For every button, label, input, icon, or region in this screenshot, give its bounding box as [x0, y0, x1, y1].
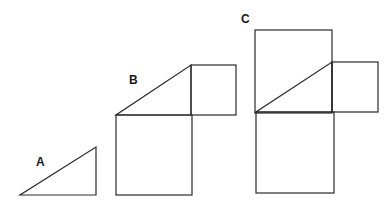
figure-c-small-square: [332, 62, 378, 112]
pythagorean-diagram: A B C: [0, 0, 392, 214]
figure-c-triangle: [256, 62, 332, 112]
figure-a-triangle: [20, 147, 96, 195]
figure-b-large-square: [116, 115, 192, 195]
figure-c-top-rect: [255, 30, 332, 113]
figure-c-label: C: [241, 12, 250, 26]
figure-a-label: A: [36, 155, 45, 169]
figure-a: A: [20, 147, 96, 195]
figure-b: B: [116, 65, 236, 195]
figure-b-label: B: [129, 73, 138, 87]
figure-c-large-square: [256, 112, 334, 193]
figure-c: C: [241, 12, 378, 193]
figure-b-triangle: [116, 65, 191, 115]
figure-b-small-square: [191, 65, 236, 115]
